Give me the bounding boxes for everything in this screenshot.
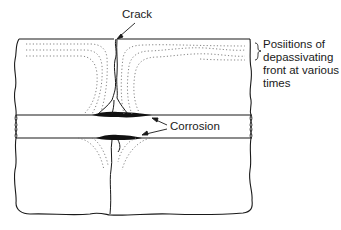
right-edge-upper <box>250 39 251 115</box>
corrosion-bottom <box>96 135 142 140</box>
positions-label-line-4: times <box>263 77 339 90</box>
positions-label-line-1: Posiitions of <box>263 38 339 51</box>
crack-branch-right <box>117 98 128 114</box>
leader-arrows <box>117 23 167 135</box>
brace-icon <box>255 43 261 60</box>
crack <box>98 39 128 214</box>
crack-label: Crack <box>122 8 152 21</box>
depassivating-front-label: Posiitions of depassivating front at var… <box>263 38 339 90</box>
right-edge-lower <box>250 138 253 200</box>
left-edge-lower <box>14 138 30 214</box>
corrosion-zones <box>92 112 152 140</box>
positions-label-line-2: depassivating <box>263 51 339 64</box>
crack-upper-main-2 <box>117 39 118 98</box>
depassivating-front-lines <box>26 44 245 170</box>
corrosion-arrow-top-head <box>152 118 158 122</box>
corrosion-arrow-bottom-line <box>146 129 167 134</box>
positions-label-line-3: front at various <box>263 64 339 77</box>
bottom-edge <box>30 200 252 215</box>
corrosion-arrow-bottom-head <box>142 131 148 135</box>
left-edge-upper <box>14 39 19 115</box>
crack-upper-main <box>112 39 116 100</box>
crack-lower-main <box>110 140 112 214</box>
corrosion-label: Corrosion <box>170 120 220 133</box>
crack-lower-branch <box>118 140 120 152</box>
concrete-crack-corrosion-diagram <box>0 0 341 230</box>
